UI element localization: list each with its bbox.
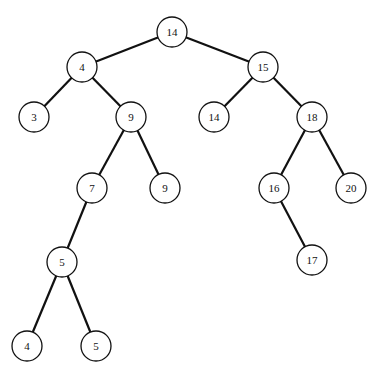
tree-node: 5 [81, 331, 111, 361]
tree-node: 5 [47, 247, 77, 277]
tree-node: 4 [12, 331, 42, 361]
node-label: 4 [79, 61, 85, 73]
node-label: 9 [128, 111, 134, 123]
node-label: 17 [307, 254, 319, 266]
node-label: 3 [31, 111, 37, 123]
tree-node: 15 [248, 52, 278, 82]
node-label: 14 [167, 26, 179, 38]
node-label: 7 [89, 182, 95, 194]
tree-node: 3 [19, 102, 49, 132]
tree-node: 9 [150, 173, 180, 203]
tree-node: 16 [259, 173, 289, 203]
tree-node: 17 [297, 245, 327, 275]
node-label: 14 [209, 111, 221, 123]
node-label: 18 [307, 111, 319, 123]
tree-node: 14 [199, 102, 229, 132]
node-label: 5 [93, 340, 99, 352]
node-label: 9 [162, 182, 168, 194]
node-label: 20 [346, 182, 358, 194]
tree-node: 9 [116, 102, 146, 132]
tree-node: 4 [67, 52, 97, 82]
node-label: 16 [269, 182, 281, 194]
binary-tree-diagram: 1443979545151418162017 [0, 0, 382, 376]
tree-node: 20 [336, 173, 366, 203]
tree-node: 7 [77, 173, 107, 203]
node-label: 4 [24, 340, 30, 352]
node-label: 5 [59, 256, 65, 268]
tree-node: 14 [157, 17, 187, 47]
tree-node: 18 [297, 102, 327, 132]
node-label: 15 [258, 61, 270, 73]
